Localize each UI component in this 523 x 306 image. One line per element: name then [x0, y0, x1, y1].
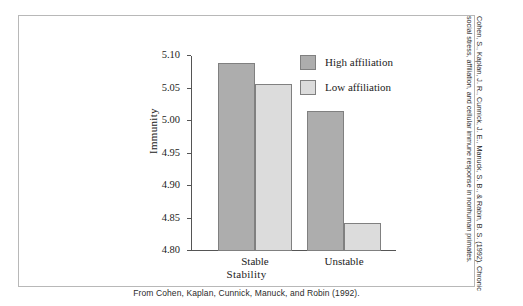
y-tick-label: 4.90 — [162, 180, 180, 191]
legend-swatch-icon-low — [300, 80, 316, 95]
y-tick: 4.85 — [187, 218, 191, 219]
legend-item-low-affiliation: Low affiliation — [300, 77, 393, 97]
y-tick-label: 4.85 — [162, 212, 180, 223]
figure-page: 4.804.854.904.955.005.055.10 StableUnsta… — [0, 0, 523, 306]
y-tick: 4.95 — [187, 153, 191, 154]
y-axis-line — [191, 56, 192, 251]
side-credit-line-2: social stress, affiliation, and cellular… — [464, 16, 474, 288]
side-credit: Cohen, S., Kaplan, J. R., Cunnick, J. E.… — [450, 16, 484, 288]
figure-frame: 4.804.854.904.955.005.055.10 StableUnsta… — [18, 15, 475, 287]
x-category-label-unstable: Unstable — [324, 256, 363, 267]
y-tick: 4.80 — [187, 250, 191, 251]
legend-item-high-affiliation: High affiliation — [300, 52, 393, 72]
y-tick-label: 5.10 — [162, 50, 180, 61]
y-tick: 4.90 — [187, 185, 191, 186]
bar-stable-high — [218, 63, 255, 251]
y-axis-title: Immunity — [147, 108, 159, 154]
y-tick: 5.05 — [187, 88, 191, 89]
y-tick-label: 4.80 — [162, 245, 180, 256]
legend-label-low: Low affiliation — [325, 81, 391, 93]
y-tick-label: 5.05 — [162, 82, 180, 93]
chart-legend: High affiliation Low affiliation — [300, 52, 393, 102]
legend-label-high: High affiliation — [325, 56, 393, 68]
legend-swatch-icon-high — [300, 55, 316, 70]
bar-unstable-high — [307, 111, 344, 251]
y-tick: 5.10 — [187, 55, 191, 56]
source-caption: From Cohen, Kaplan, Cunnick, Manuck, and… — [19, 288, 474, 298]
y-tick-label: 4.95 — [162, 147, 180, 158]
y-tick: 5.00 — [187, 120, 191, 121]
side-credit-line-1: Cohen, S., Kaplan, J. R., Cunnick, J. E.… — [474, 16, 484, 288]
x-category-label-stable: Stable — [241, 256, 269, 267]
x-axis-title: Stability — [19, 268, 474, 280]
bar-unstable-low — [344, 223, 381, 251]
y-tick-label: 5.00 — [162, 115, 180, 126]
bar-stable-low — [255, 84, 292, 251]
